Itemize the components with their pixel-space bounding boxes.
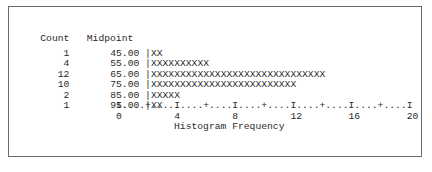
histogram-output-panel: Count Midpoint 145.00 |XX 455.00 |XXXXXX… bbox=[8, 6, 422, 157]
histogram-row: 145.00 |XX bbox=[17, 38, 163, 49]
x-axis-scale: I....+....I....+....I....+....I....+....… bbox=[116, 101, 413, 112]
x-axis-label: Histogram Frequency bbox=[174, 122, 284, 133]
histogram-row: 1075.00 |XXXXXXXXXXXXXXXXXXXXXXXXX bbox=[17, 70, 296, 81]
table-header: Count Midpoint bbox=[17, 23, 133, 34]
histogram-row: 285.00 |XXXXX bbox=[17, 80, 180, 91]
histogram-row: 1265.00 |XXXXXXXXXXXXXXXXXXXXXXXXXXXXXX bbox=[17, 59, 325, 70]
count-cell: 1 bbox=[40, 101, 69, 112]
histogram-row: 455.00 |XXXXXXXXXX bbox=[17, 49, 209, 60]
